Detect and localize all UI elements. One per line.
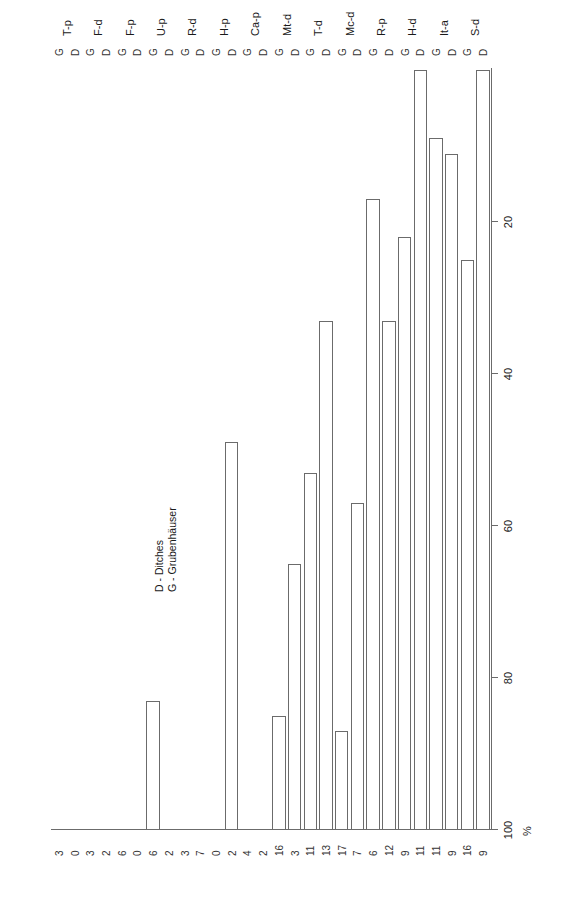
- category-label-f-d: F-d: [92, 20, 104, 37]
- bar-it-a-g: [429, 138, 443, 830]
- bar-row: [445, 70, 459, 830]
- bar-mt-d-g: [272, 716, 286, 830]
- bar-t-d-d: [319, 321, 333, 830]
- bar-count-label: 2: [163, 850, 174, 856]
- category-label-s-d: S-d: [469, 19, 481, 36]
- category-label-ca-p: Ca-p: [249, 12, 261, 36]
- rotated-figure-wrapper: 303260623702421631113177612911119169 GDG…: [21, 12, 541, 892]
- bar-count-label: 16: [273, 845, 284, 856]
- series-letter-d: D: [383, 49, 394, 56]
- bar-count-label: 3: [289, 850, 300, 856]
- series-letter-d: D: [132, 49, 143, 56]
- axis-tick-mark: [491, 373, 498, 374]
- bar-row: [209, 70, 223, 830]
- bar-mc-d-g: [335, 731, 349, 830]
- bar-row: [288, 70, 302, 830]
- bar-row: [162, 70, 176, 830]
- series-letter-g: G: [273, 48, 284, 56]
- bar-row: [461, 70, 475, 830]
- series-letter-d: D: [289, 49, 300, 56]
- bar-row: [146, 70, 160, 830]
- bar-row: [429, 70, 443, 830]
- series-letter-g: G: [305, 48, 316, 56]
- bar-row: [178, 70, 192, 830]
- bar-row: [398, 70, 412, 830]
- series-letter-d: D: [478, 49, 489, 56]
- category-label-h-d: H-d: [406, 18, 418, 36]
- series-letter-g: G: [211, 48, 222, 56]
- bar-row: [115, 70, 129, 830]
- bar-count-label: 6: [116, 850, 127, 856]
- legend-entry-ditches: D - Ditches: [153, 507, 166, 592]
- bar-count-label: 11: [431, 846, 442, 856]
- bar-s-d-d: [476, 70, 490, 830]
- axis-tick-mark: [491, 829, 498, 830]
- bar-count-label: 9: [399, 850, 410, 856]
- category-label-r-d: R-d: [186, 18, 198, 36]
- series-letter-g: G: [368, 48, 379, 56]
- bar-row: [68, 70, 82, 830]
- bar-h-p-d: [225, 442, 239, 830]
- bar-row: [131, 70, 145, 830]
- series-letter-d: D: [352, 49, 363, 56]
- legend: D - Ditches G - Grubenhäuser: [153, 507, 179, 592]
- bar-count-label: 7: [352, 850, 363, 856]
- series-letter-d: D: [69, 49, 80, 56]
- category-label-t-d: T-d: [312, 20, 324, 36]
- axis-tick-mark: [491, 221, 498, 222]
- bar-count-label: 12: [383, 845, 394, 856]
- category-label-r-p: R-p: [375, 18, 387, 36]
- value-scale-axis: [491, 68, 492, 830]
- series-letter-d: D: [446, 49, 457, 56]
- bar-count-label: 3: [179, 850, 190, 856]
- category-label-it-a: It-a: [438, 20, 450, 36]
- bar-row: [319, 70, 333, 830]
- bar-row: [414, 70, 428, 830]
- axis-tick-label: 20: [502, 216, 514, 228]
- plot-area: 303260623702421631113177612911119169 GDG…: [51, 70, 491, 830]
- series-letter-g: G: [399, 48, 410, 56]
- axis-tick-label: 80: [502, 672, 514, 684]
- bar-count-label: 9: [446, 850, 457, 856]
- chart-page: 303260623702421631113177612911119169 GDG…: [0, 0, 562, 904]
- category-label-t-p: T-p: [61, 20, 73, 36]
- bar-r-p-g: [366, 199, 380, 830]
- bar-it-a-d: [445, 154, 459, 830]
- bar-row: [351, 70, 365, 830]
- bar-count-label: 16: [462, 845, 473, 856]
- series-letter-d: D: [258, 49, 269, 56]
- bar-count-label: 11: [305, 846, 316, 856]
- bar-count-label: 6: [368, 850, 379, 856]
- series-letter-d: D: [321, 49, 332, 56]
- series-letter-g: G: [336, 48, 347, 56]
- bar-count-label: 7: [195, 850, 206, 856]
- series-letter-d: D: [163, 49, 174, 56]
- category-label-h-p: H-p: [218, 18, 230, 36]
- bar-mt-d-d: [288, 564, 302, 830]
- bar-count-label: 2: [101, 850, 112, 856]
- axis-tick-mark: [491, 525, 498, 526]
- category-label-mc-d: Mc-d: [344, 12, 356, 36]
- bar-count-label: 17: [336, 845, 347, 856]
- bar-row: [99, 70, 113, 830]
- series-letter-d: D: [195, 49, 206, 56]
- bar-count-label: 4: [242, 850, 253, 856]
- series-letter-g: G: [242, 48, 253, 56]
- axis-unit-label: %: [521, 826, 533, 836]
- category-label-f-p: F-p: [124, 20, 136, 37]
- series-letter-d: D: [415, 49, 426, 56]
- category-label-u-p: U-p: [155, 18, 167, 36]
- bar-h-d-d: [414, 70, 428, 830]
- bar-row: [84, 70, 98, 830]
- legend-entry-grubenhaeuser: G - Grubenhäuser: [166, 507, 179, 592]
- category-label-mt-d: Mt-d: [281, 14, 293, 36]
- bar-count-label: 13: [321, 845, 332, 856]
- bar-row: [256, 70, 270, 830]
- bar-mc-d-d: [351, 503, 365, 830]
- bar-row: [225, 70, 239, 830]
- bar-row: [272, 70, 286, 830]
- bar-row: [241, 70, 255, 830]
- bar-row: [476, 70, 490, 830]
- figure: 303260623702421631113177612911119169 GDG…: [21, 12, 541, 892]
- axis-tick-mark: [491, 677, 498, 678]
